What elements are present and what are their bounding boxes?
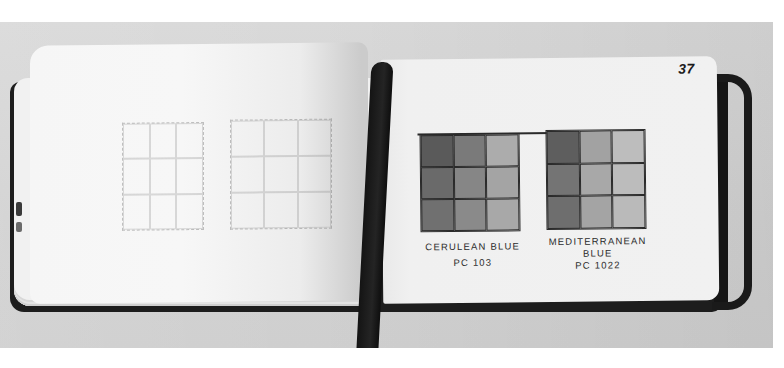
swatch-cell — [421, 199, 454, 231]
swatch-cell — [546, 131, 579, 164]
swatch-grid-mediterranean-blue — [545, 129, 646, 230]
left-page — [30, 42, 368, 304]
swatch-cell — [579, 163, 612, 196]
faint-grid-2 — [230, 119, 332, 230]
sketchbook-photo: 37 CERULEAN BLUE PC 103 — [0, 22, 773, 348]
swatch-cell — [453, 135, 486, 167]
swatch-cell — [486, 166, 519, 198]
swatch-label-cerulean-blue: CERULEAN BLUE PC 103 — [423, 240, 523, 269]
swatch-cell — [486, 134, 519, 166]
right-page: 37 CERULEAN BLUE PC 103 — [381, 56, 720, 304]
swatch-cell — [454, 199, 487, 231]
faint-grid-1 — [122, 122, 204, 231]
swatch-cell — [421, 167, 454, 199]
swatch-cell — [421, 135, 454, 167]
page-number: 37 — [678, 60, 695, 76]
swatch-cell — [612, 195, 645, 228]
label-line: PC 1022 — [543, 259, 653, 272]
swatch-cell — [612, 130, 645, 163]
swatch-cell — [487, 198, 520, 230]
label-line: CERULEAN BLUE — [423, 240, 523, 253]
swatch-grid-cerulean-blue — [420, 133, 521, 232]
swatch-cell — [580, 196, 613, 229]
page-tab-marker — [16, 202, 22, 216]
label-line: PC 103 — [423, 256, 523, 269]
swatch-cell — [612, 163, 645, 196]
swatch-cell — [547, 196, 580, 229]
label-line: MEDITERRANEAN — [543, 235, 653, 248]
swatch-cell — [579, 130, 612, 163]
swatch-cell — [454, 167, 487, 199]
page-tab-marker — [16, 222, 22, 232]
swatch-label-mediterranean-blue: MEDITERRANEAN BLUE PC 1022 — [543, 235, 653, 272]
swatch-cell — [547, 163, 580, 196]
